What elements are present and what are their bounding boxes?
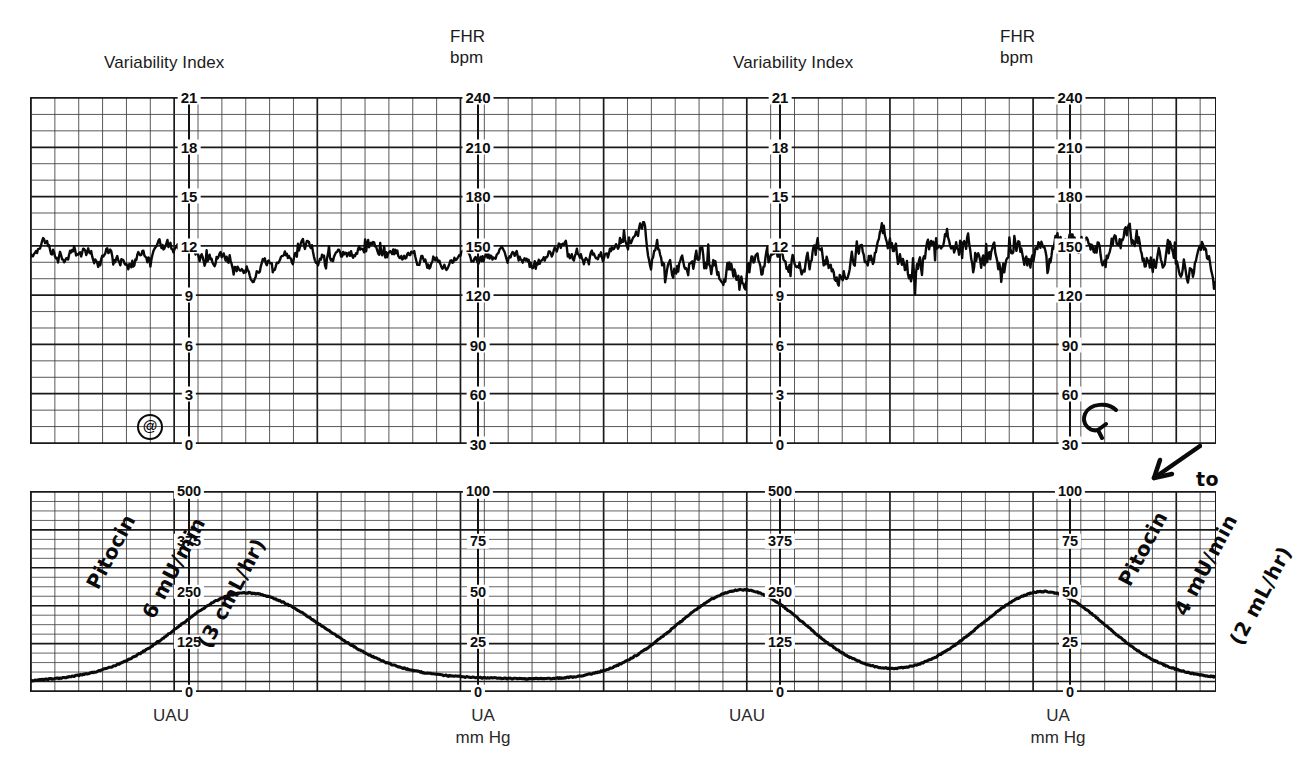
variability-index-tick-12-col2: 12 bbox=[769, 238, 792, 253]
fhr-tick-240-col1: 240 bbox=[462, 90, 493, 105]
ua-mmhg-tick-0-col1: 0 bbox=[471, 685, 485, 700]
uau-tick-375-col2: 375 bbox=[765, 534, 795, 549]
footer-ua-right: UA mm Hg bbox=[1018, 705, 1098, 749]
handwriting-left-line2: 6 mU/min bbox=[139, 505, 214, 622]
header-variability-index-left: Variability Index bbox=[104, 52, 224, 73]
ua-mmhg-tick-25-col1: 25 bbox=[467, 635, 489, 650]
variability-index-tick-9-col2: 9 bbox=[773, 288, 787, 303]
fhr-tick-60-col1: 60 bbox=[467, 387, 490, 402]
variability-index-tick-15-col0: 15 bbox=[178, 189, 201, 204]
handwriting-left-line1: Pitocin bbox=[83, 476, 158, 593]
handwriting-left-marker: @ bbox=[137, 414, 163, 440]
ua-mmhg-tick-50-col1: 50 bbox=[467, 584, 489, 599]
handwriting-right-line3: (2 mL/hr) bbox=[1226, 541, 1297, 649]
fhr-grid bbox=[31, 98, 1215, 443]
ua-mmhg-tick-50-col3: 50 bbox=[1059, 584, 1081, 599]
variability-index-tick-6-col2: 6 bbox=[773, 337, 787, 352]
fhr-tick-90-col3: 90 bbox=[1059, 337, 1082, 352]
fhr-tick-180-col3: 180 bbox=[1054, 189, 1085, 204]
fhr-tick-150-col1: 150 bbox=[462, 238, 493, 253]
fhr-chart-panel bbox=[30, 97, 1216, 444]
variability-index-tick-21-col2: 21 bbox=[769, 90, 792, 105]
fhr-tick-240-col3: 240 bbox=[1054, 90, 1085, 105]
footer-ua-left: UA mm Hg bbox=[443, 705, 523, 749]
header-variability-index-right: Variability Index bbox=[733, 52, 853, 73]
ua-mmhg-tick-75-col1: 75 bbox=[467, 534, 489, 549]
variability-index-tick-0-col0: 0 bbox=[182, 437, 196, 452]
ua-mmhg-tick-25-col3: 25 bbox=[1059, 635, 1081, 650]
fhr-tick-120-col3: 120 bbox=[1054, 288, 1085, 303]
ua-mmhg-tick-75-col3: 75 bbox=[1059, 534, 1081, 549]
variability-index-tick-6-col0: 6 bbox=[182, 337, 196, 352]
ua-mmhg-tick-100-col3: 100 bbox=[1055, 484, 1085, 499]
ua-mmhg-tick-0-col3: 0 bbox=[1063, 685, 1077, 700]
fhr-tick-150-col3: 150 bbox=[1054, 238, 1085, 253]
handwriting-right-arrow-icon bbox=[1146, 444, 1202, 486]
fhr-tick-180-col1: 180 bbox=[462, 189, 493, 204]
ua-mmhg-tick-100-col1: 100 bbox=[463, 484, 493, 499]
fhr-tick-210-col1: 210 bbox=[462, 139, 493, 154]
variability-index-tick-3-col0: 3 bbox=[182, 387, 196, 402]
uau-tick-500-col2: 500 bbox=[765, 484, 795, 499]
handwriting-left-line3: (3 cmL/hr) bbox=[194, 535, 269, 652]
fhr-tick-90-col1: 90 bbox=[467, 337, 490, 352]
uau-tick-250-col2: 250 bbox=[765, 584, 795, 599]
variability-index-tick-0-col2: 0 bbox=[773, 437, 787, 452]
handwriting-right-circle-icon bbox=[1078, 400, 1122, 440]
header-fhr-right: FHR bpm bbox=[1000, 26, 1035, 69]
handwriting-right-line1: Pitocin bbox=[1115, 482, 1186, 590]
variability-index-tick-18-col0: 18 bbox=[178, 139, 201, 154]
footer-uau-left: UAU bbox=[131, 705, 211, 727]
footer-uau-right: UAU bbox=[707, 705, 787, 727]
uau-tick-0-col0: 0 bbox=[182, 685, 196, 700]
variability-index-tick-21-col0: 21 bbox=[178, 90, 201, 105]
fhr-tick-120-col1: 120 bbox=[462, 288, 493, 303]
uau-tick-125-col2: 125 bbox=[765, 635, 795, 650]
fhr-tick-210-col3: 210 bbox=[1054, 139, 1085, 154]
handwriting-left-marker-glyph: @ bbox=[137, 414, 163, 440]
variability-index-tick-3-col2: 3 bbox=[773, 387, 787, 402]
variability-index-tick-9-col0: 9 bbox=[182, 288, 196, 303]
variability-index-tick-15-col2: 15 bbox=[769, 189, 792, 204]
uau-tick-0-col2: 0 bbox=[773, 685, 787, 700]
fhr-tick-30-col1: 30 bbox=[467, 437, 490, 452]
variability-index-tick-18-col2: 18 bbox=[769, 139, 792, 154]
header-fhr-left: FHR bpm bbox=[450, 26, 485, 69]
variability-index-tick-12-col0: 12 bbox=[178, 238, 201, 253]
